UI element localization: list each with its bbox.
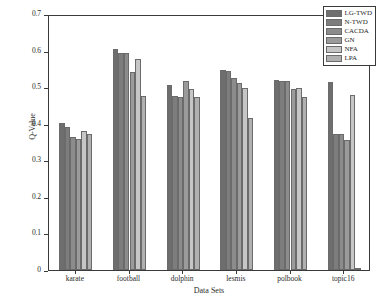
legend-label: LPA [344, 54, 357, 63]
legend-swatch [326, 19, 342, 26]
y-axis-tick-mark [44, 234, 48, 235]
bar-polbook-lpa [302, 97, 308, 270]
legend-label: NFA [344, 45, 357, 54]
y-axis-tick-label: 0.2 [32, 192, 41, 201]
x-axis-tick-label: lesmis [226, 274, 245, 283]
plot-frame [48, 15, 370, 271]
x-axis-tick-label: dolphin [171, 274, 194, 283]
bar-lesmis-lpa [248, 118, 254, 270]
y-axis-tick-label: 0.1 [32, 228, 41, 237]
y-axis-tick-mark [44, 52, 48, 53]
bar-topic16-lpa [355, 268, 361, 270]
legend-item-cacda: CACDA [326, 27, 372, 36]
x-axis-tick-label: polbook [277, 274, 302, 283]
y-axis-tick-label: 0.7 [32, 9, 41, 18]
y-axis-tick-mark [44, 271, 48, 272]
y-axis-tick-mark [44, 125, 48, 126]
legend-label: N-TWD [344, 18, 367, 27]
legend-item-gn: GN [326, 36, 372, 45]
y-axis-tick-mark [44, 15, 48, 16]
y-axis-tick-mark [44, 88, 48, 89]
legend-swatch [326, 37, 342, 44]
legend-swatch [326, 10, 342, 17]
x-axis-label: Data Sets [48, 286, 370, 295]
legend-label: CACDA [344, 27, 369, 36]
y-axis-tick-mark [44, 161, 48, 162]
legend-item-nfa: NFA [326, 45, 372, 54]
legend-swatch [326, 55, 342, 62]
y-axis-tick-mark [44, 198, 48, 199]
y-axis-tick-label: 0 [37, 265, 41, 274]
legend-label: GN [344, 36, 354, 45]
bar-football-lpa [141, 96, 147, 270]
y-axis-label: Q-Value [28, 87, 37, 167]
legend-swatch [326, 46, 342, 53]
legend-item-lpa: LPA [326, 54, 372, 63]
x-axis-tick-label: topic16 [332, 274, 355, 283]
x-axis-tick-label: karate [66, 274, 84, 283]
bar-karate-lpa [87, 134, 93, 270]
x-axis-tick-label: football [117, 274, 140, 283]
legend-label: LG-TWD [344, 9, 372, 18]
legend: LG-TWDN-TWDCACDAGNNFALPA [323, 6, 376, 66]
figure-canvas: 00.10.20.30.40.50.60.7 Q-Value Data Sets… [0, 0, 382, 302]
y-axis-tick-label: 0.6 [32, 46, 41, 55]
bar-dolphin-lpa [194, 97, 200, 270]
bar-topic16-nfa [350, 95, 356, 270]
legend-swatch [326, 28, 342, 35]
legend-item-n-twd: N-TWD [326, 18, 372, 27]
legend-item-lg-twd: LG-TWD [326, 9, 372, 18]
plot-area [49, 16, 369, 270]
